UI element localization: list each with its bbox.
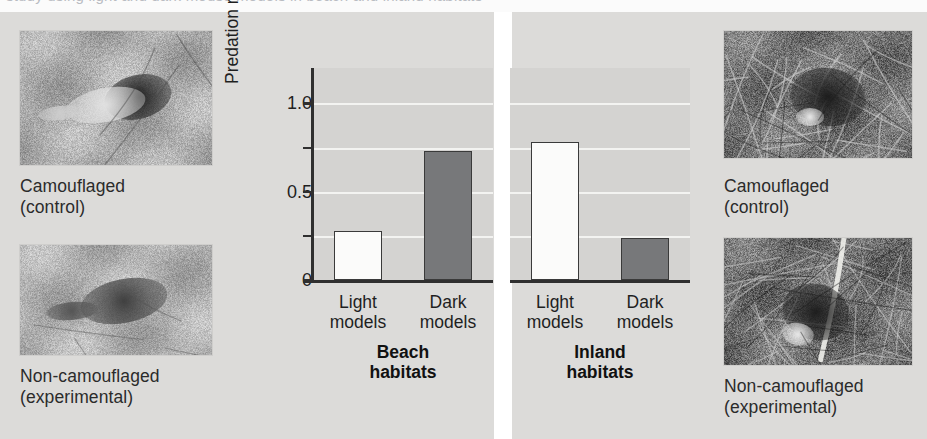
chart-panel-inland: Light modelsDark modelsInland habitats — [510, 40, 690, 340]
figure-root: study using light and dark mouse models … — [0, 0, 927, 439]
panel-title-inland: Inland habitats — [510, 342, 690, 382]
y-axis-title: Predation rate — [222, 0, 243, 84]
top-cropped-text: study using light and dark mouse models … — [6, 0, 482, 4]
inland-mouse-camouflaged-photo — [724, 31, 912, 158]
beach-mouse-non-camouflaged-caption: Non-camouflaged (experimental) — [20, 366, 160, 408]
x-axis-line — [510, 280, 690, 283]
bar-light-models — [334, 231, 382, 280]
category-label-light-models: Light models — [313, 292, 403, 332]
category-label-dark-models: Dark models — [600, 292, 690, 332]
y-axis-tick-0-75 — [303, 147, 311, 150]
beach-mouse-camouflaged-photo — [20, 31, 212, 165]
category-label-dark-models: Dark models — [403, 292, 493, 332]
y-axis-tick-labels: 00.51.0 — [270, 40, 312, 280]
gridline-1 — [313, 103, 493, 105]
chart-panel-beach: Light modelsDark modelsBeach habitats — [313, 40, 493, 340]
y-axis-tick-0-25 — [303, 235, 311, 238]
category-label-light-models: Light models — [510, 292, 600, 332]
y-axis-tick-1 — [303, 102, 311, 105]
gridline-0-75 — [313, 148, 493, 150]
beach-mouse-camouflaged-caption: Camouflaged (control) — [20, 176, 125, 218]
gridline-1 — [510, 103, 690, 105]
y-axis-line — [311, 68, 314, 280]
inland-mouse-camouflaged-caption: Camouflaged (control) — [724, 176, 829, 218]
y-axis-tick-0-5 — [303, 191, 311, 194]
top-cropped-text-strip: study using light and dark mouse models … — [0, 0, 927, 12]
inland-mouse-non-camouflaged-caption: Non-camouflaged (experimental) — [724, 376, 864, 418]
bar-dark-models — [621, 238, 669, 280]
bar-light-models — [531, 142, 579, 280]
predation-rate-bar-chart: Predation rate 00.51.0 Light modelsDark … — [236, 40, 706, 400]
x-axis-line — [303, 280, 493, 283]
beach-mouse-non-camouflaged-photo — [20, 245, 212, 355]
bar-dark-models — [424, 151, 472, 280]
panel-title-beach: Beach habitats — [313, 342, 493, 382]
inland-mouse-non-camouflaged-photo — [724, 238, 912, 365]
